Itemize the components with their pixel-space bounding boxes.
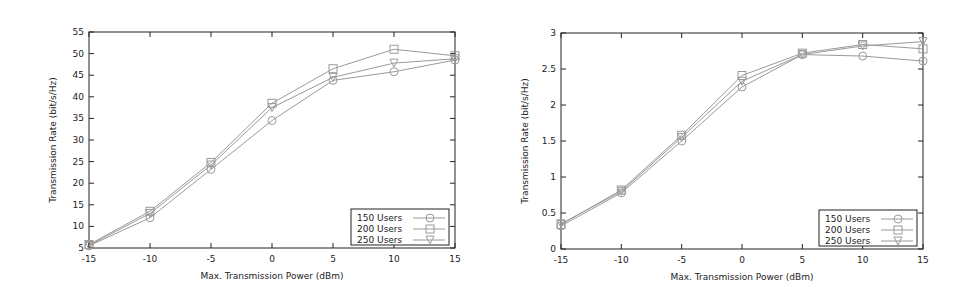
legend-label: 200 Users [825, 225, 871, 235]
x-tick-label: -15 [82, 254, 97, 264]
y-tick-label: 25 [73, 157, 84, 167]
x-tick-label: 15 [449, 254, 460, 264]
x-axis-label: Max. Transmission Power (dBm) [200, 271, 343, 281]
legend-label: 250 Users [825, 236, 871, 246]
y-axis-label: Transmission Rate (bit/s/Hz) [520, 78, 530, 205]
y-tick-label: 3 [550, 28, 556, 38]
x-tick-label: 10 [857, 255, 869, 265]
x-tick-label: 5 [330, 254, 336, 264]
y-tick-label: 35 [73, 113, 84, 123]
x-tick-label: -10 [143, 254, 158, 264]
x-tick-label: -15 [554, 255, 569, 265]
y-tick-label: 5 [78, 243, 84, 253]
x-tick-label: 0 [739, 255, 745, 265]
series-200-users [557, 41, 927, 229]
legend: 150 Users200 Users250 Users [819, 210, 917, 246]
y-tick-label: 55 [73, 27, 84, 37]
y-tick-label: 50 [73, 49, 85, 59]
x-tick-label: -5 [207, 254, 216, 264]
legend-label: 200 Users [357, 224, 403, 234]
legend-label: 150 Users [825, 214, 871, 224]
chart-left-svg: -15-10-5051015510152025303540455055Max. … [0, 0, 485, 297]
y-tick-label: 2.5 [542, 64, 556, 74]
y-tick-label: 10 [73, 221, 85, 231]
legend: 150 Users200 Users250 Users [351, 209, 449, 245]
chart-right: -15-10-505101500.511.522.53Max. Transmis… [485, 0, 971, 297]
y-tick-label: 45 [73, 70, 84, 80]
legend-label: 250 Users [357, 235, 403, 245]
y-tick-label: 20 [73, 178, 85, 188]
y-tick-label: 1.5 [542, 136, 556, 146]
legend-label: 150 Users [357, 213, 403, 223]
y-tick-label: 2 [550, 100, 556, 110]
series-line [561, 55, 923, 226]
x-axis-label: Max. Transmission Power (dBm) [670, 272, 813, 282]
y-tick-label: 30 [73, 135, 85, 145]
y-tick-label: 0.5 [542, 208, 556, 218]
x-tick-label: -10 [614, 255, 629, 265]
x-tick-label: 10 [388, 254, 400, 264]
y-axis-label: Transmission Rate (bit/s/Hz) [48, 77, 58, 204]
x-tick-label: 0 [269, 254, 275, 264]
x-tick-label: 15 [917, 255, 928, 265]
chart-right-svg: -15-10-505101500.511.522.53Max. Transmis… [485, 0, 971, 297]
y-tick-label: 15 [73, 200, 84, 210]
chart-left: -15-10-5051015510152025303540455055Max. … [0, 0, 485, 297]
y-tick-label: 40 [73, 92, 85, 102]
y-tick-label: 1 [550, 172, 556, 182]
x-tick-label: -5 [677, 255, 686, 265]
y-tick-label: 0 [550, 244, 556, 254]
x-tick-label: 5 [799, 255, 805, 265]
series-250-users [557, 38, 927, 228]
